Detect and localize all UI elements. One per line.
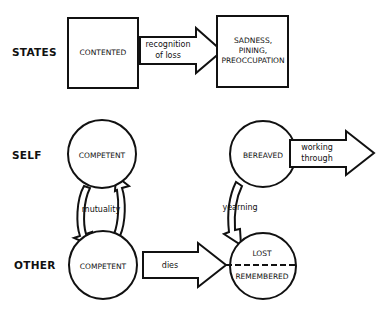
working-through-line2: through xyxy=(301,154,332,163)
dies-arrow: dies xyxy=(143,243,226,287)
self-competent-circle: COMPETENT xyxy=(68,120,136,188)
self-bereaved-circle: BEREAVED xyxy=(230,121,296,187)
dies-label: dies xyxy=(162,261,178,270)
state-contented-label: CONTENTED xyxy=(80,48,127,57)
row-label-self: SELF xyxy=(12,149,42,161)
self-bereaved-label: BEREAVED xyxy=(243,151,283,160)
recognition-label-line2: of loss xyxy=(155,51,181,60)
working-through-line1: working xyxy=(301,143,333,152)
state-sadness-box: SADNESS, PINING, PREOCCUPATION xyxy=(217,16,288,87)
bereavement-diagram: STATES SELF OTHER CONTENTED recognition … xyxy=(0,0,388,313)
sadness-label-line2: PINING, xyxy=(239,46,267,55)
other-competent-label: COMPETENT xyxy=(80,262,127,271)
sadness-label-line1: SADNESS, xyxy=(234,36,272,45)
remembered-label: REMEMBERED xyxy=(235,272,288,281)
recognition-of-loss-arrow: recognition of loss xyxy=(140,28,222,73)
state-contented-box: CONTENTED xyxy=(68,18,138,88)
row-label-states: STATES xyxy=(12,46,57,58)
other-competent-circle: COMPETENT xyxy=(69,231,137,299)
mutuality-label: mutuality xyxy=(82,205,121,214)
sadness-label-line3: PREOCCUPATION xyxy=(221,56,284,65)
yearning-label: yearning xyxy=(222,203,257,212)
recognition-label-line1: recognition xyxy=(145,40,190,49)
self-competent-label: COMPETENT xyxy=(79,151,126,160)
lost-label: LOST xyxy=(252,249,272,258)
working-through-arrow: working through xyxy=(290,131,374,175)
row-label-other: OTHER xyxy=(14,259,56,271)
